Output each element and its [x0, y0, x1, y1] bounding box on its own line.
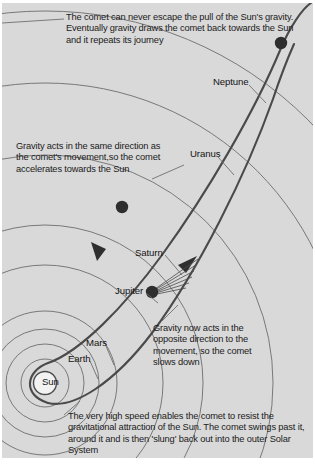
comet-icon-inbound: [116, 201, 128, 213]
planet-label-uranus: Uranus: [190, 149, 220, 159]
planet-label-saturn: Saturn: [135, 248, 163, 258]
comet-icon-perihelion: [146, 286, 158, 298]
orbit-neptune: [2, 83, 313, 458]
planet-label-neptune: Neptune: [213, 77, 249, 87]
diagram-panel: The comet can never escape the pull of t…: [2, 3, 313, 458]
leader-label-earth: [90, 361, 98, 379]
planet-label-jupiter: Jupiter: [115, 286, 143, 296]
note-acceleration: Gravity acts in the same direction as th…: [16, 141, 166, 175]
arrow-down-icon: [91, 242, 106, 261]
leader-label-mars: [106, 346, 114, 365]
note-perihelion-slingshot: The very high speed enables the comet to…: [68, 411, 312, 457]
note-aphelion: The comet can never escape the pull of t…: [66, 12, 310, 46]
planet-label-sun: Sun: [42, 377, 59, 387]
leader-note-top: [2, 19, 64, 23]
planet-label-mars: Mars: [86, 338, 107, 348]
orbit-artwork: [2, 3, 313, 458]
note-deceleration: Gravity now acts in the opposite directi…: [153, 323, 271, 369]
comet-orbit-diagram: The comet can never escape the pull of t…: [0, 0, 315, 464]
planet-label-earth: Earth: [68, 354, 90, 364]
